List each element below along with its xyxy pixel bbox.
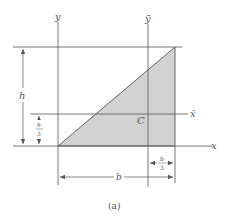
base-label: b <box>116 172 122 182</box>
centroid-label: C <box>137 115 145 126</box>
height-third-denominator: 3 <box>37 130 41 137</box>
height-label: h <box>19 90 25 101</box>
y-bar-axis-label: ȳ <box>144 13 151 24</box>
y-axis-label: y <box>54 11 61 22</box>
triangle-centroid-diagram: y ȳ x x̄ C h h 3 b b 3 (a) <box>0 0 226 224</box>
figure: y ȳ x x̄ C h h 3 b b 3 (a) <box>0 0 226 224</box>
x-bar-axis-label: x̄ <box>190 108 196 119</box>
triangle-shape <box>58 47 175 146</box>
figure-caption: (a) <box>108 201 120 211</box>
base-third-numerator: b <box>160 155 164 162</box>
base-third-denominator: 3 <box>160 164 164 171</box>
x-axis-label: x <box>211 140 217 151</box>
height-third-numerator: h <box>37 121 41 128</box>
